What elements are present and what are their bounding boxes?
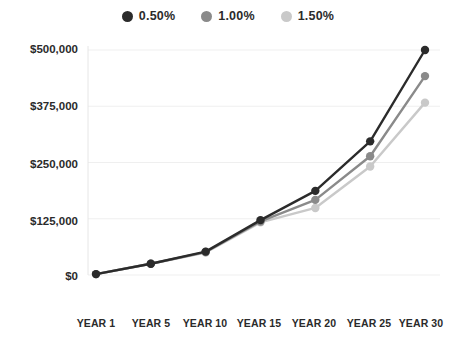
x-tick-label: YEAR 10: [183, 318, 227, 329]
x-tick-label: YEAR 15: [237, 318, 281, 329]
circle-marker-icon: [122, 11, 133, 22]
data-point-marker[interactable]: [311, 187, 319, 195]
x-axis: YEAR 1 YEAR 5 YEAR 10 YEAR 15 YEAR 20 YE…: [0, 318, 456, 340]
data-point-marker[interactable]: [366, 137, 374, 145]
plot-area: [0, 30, 456, 290]
legend-item-series-3[interactable]: 1.50%: [281, 10, 334, 23]
data-point-marker[interactable]: [311, 196, 319, 204]
x-tick-label: YEAR 1: [77, 318, 116, 329]
data-point-marker[interactable]: [421, 72, 429, 80]
data-point-marker[interactable]: [311, 204, 319, 212]
data-point-marker[interactable]: [366, 162, 374, 170]
chart-legend: 0.50% 1.00% 1.50%: [0, 6, 456, 26]
series-line: [96, 103, 425, 274]
circle-marker-icon: [281, 11, 292, 22]
data-point-marker[interactable]: [92, 270, 100, 278]
x-tick-label: YEAR 5: [132, 318, 171, 329]
data-point-marker[interactable]: [421, 46, 429, 54]
data-point-marker[interactable]: [147, 260, 155, 268]
data-point-marker[interactable]: [256, 216, 264, 224]
legend-label: 1.50%: [298, 10, 334, 23]
data-point-marker[interactable]: [421, 98, 429, 106]
x-tick-label: YEAR 30: [399, 318, 443, 329]
chart-canvas: [0, 30, 456, 290]
series-1.00%: [92, 72, 429, 278]
x-tick-label: YEAR 20: [292, 318, 336, 329]
legend-label: 0.50%: [139, 10, 175, 23]
gridlines: [88, 50, 440, 275]
line-chart: 0.50% 1.00% 1.50% $500,000 $375,000 $250…: [0, 0, 456, 358]
legend-item-series-1[interactable]: 0.50%: [122, 10, 175, 23]
legend-label: 1.00%: [218, 10, 254, 23]
data-point-marker[interactable]: [201, 247, 209, 255]
circle-marker-icon: [201, 11, 212, 22]
x-tick-label: YEAR 25: [347, 318, 391, 329]
legend-item-series-2[interactable]: 1.00%: [201, 10, 254, 23]
data-point-marker[interactable]: [366, 152, 374, 160]
